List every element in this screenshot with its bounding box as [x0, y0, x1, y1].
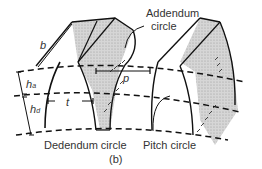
right-tooth — [150, 18, 238, 145]
pitch-circle-label: Pitch circle — [143, 140, 196, 151]
dedendum-height-label: hd — [30, 104, 40, 115]
addendum-circle-label: Addendum — [146, 8, 199, 19]
gear-teeth-drawing — [0, 0, 262, 169]
figure-tag: (b) — [109, 154, 122, 165]
tooth-thickness-label: t — [66, 97, 69, 108]
dedendum-circle-label: Dedendum circle — [44, 140, 127, 151]
left-tooth — [36, 18, 135, 130]
addendum-height-label: ha — [26, 79, 36, 90]
circular-pitch-label: p — [123, 73, 129, 84]
gear-tooth-diagram: Addendum circle b p t ha hd Dedendum cir… — [0, 0, 262, 169]
face-width-label: b — [40, 40, 46, 51]
addendum-circle-label-line2: circle — [151, 21, 177, 32]
